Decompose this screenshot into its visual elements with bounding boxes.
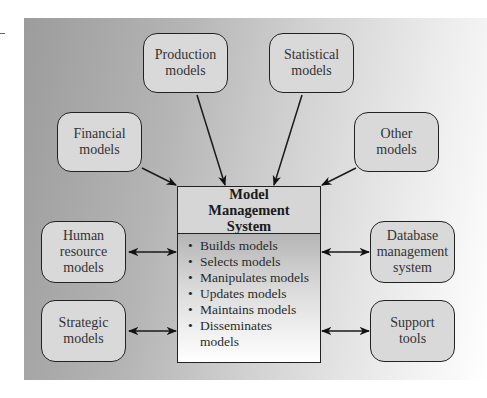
node-label-line: management	[377, 244, 449, 260]
node-label-line: Human	[60, 228, 107, 244]
mms-function-item: Disseminates models	[188, 318, 300, 350]
mms-function-item: Selects models	[188, 254, 320, 270]
model-management-system-box: Model Management System Builds models Se…	[177, 186, 321, 363]
node-label-line: models	[284, 63, 339, 79]
mms-function-item: Manipulates models	[188, 270, 320, 286]
node-label-line: tools	[390, 331, 434, 347]
mms-function-list: Builds models Selects models Manipulates…	[178, 234, 320, 362]
node-label-line: models	[73, 142, 125, 158]
mms-function-item: Updates models	[188, 286, 320, 302]
node-other-models: Other models	[354, 112, 439, 172]
node-strategic-models: Strategic models	[41, 300, 126, 362]
node-label-line: models	[155, 63, 216, 79]
node-label-line: Other	[376, 126, 416, 142]
arrow-other	[322, 168, 356, 185]
mms-title: Model Management System	[178, 187, 320, 234]
node-support-tools: Support tools	[370, 300, 455, 362]
node-label-line: Support	[390, 315, 434, 331]
arrow-production	[197, 95, 225, 185]
node-label-line: models	[60, 260, 107, 276]
node-production-models: Production models	[143, 33, 228, 93]
mms-function-item: Builds models	[188, 238, 320, 254]
node-label-line: Statistical	[284, 47, 339, 63]
node-label-line: Database	[377, 228, 449, 244]
node-label-line: models	[376, 142, 416, 158]
arrow-statistical	[274, 95, 302, 185]
node-label-line: Production	[155, 47, 216, 63]
node-label-line: models	[59, 331, 109, 347]
node-label-line: system	[377, 260, 449, 276]
node-label-line: resource	[60, 244, 107, 260]
mms-title-text: Model Management System	[194, 186, 304, 234]
node-label-line: Financial	[73, 126, 125, 142]
mms-function-item: Maintains models	[188, 302, 320, 318]
node-label-line: Strategic	[59, 315, 109, 331]
node-database-management-system: Database management system	[370, 221, 455, 283]
arrow-financial	[142, 168, 176, 185]
node-human-resource-models: Human resource models	[41, 221, 126, 283]
node-financial-models: Financial models	[57, 112, 142, 172]
node-statistical-models: Statistical models	[269, 33, 354, 93]
